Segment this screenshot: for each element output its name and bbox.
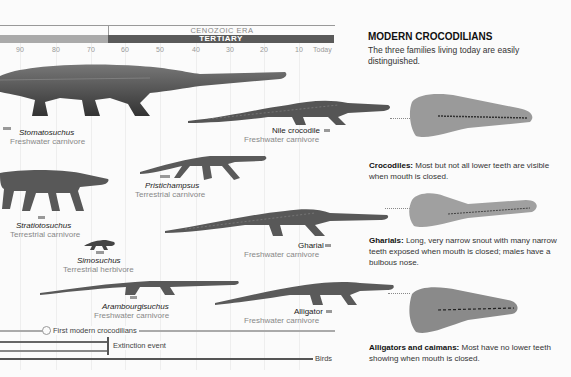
species-description: Terrestrial carnivore: [135, 190, 205, 199]
tick-label: 50: [156, 46, 164, 53]
leader-line: [385, 208, 410, 209]
alligator-illustration: [215, 275, 395, 307]
species-description: Freshwater carnivore: [244, 135, 319, 144]
range-marker: [38, 216, 45, 219]
species-name: Simosuchus: [77, 256, 121, 265]
alligators-description: Alligators and caimans: Most have no low…: [369, 342, 564, 364]
species-name: Gharial: [298, 241, 324, 250]
species-description: Freshwater carnivore: [10, 137, 85, 146]
range-marker: [324, 129, 330, 132]
crocodile-head-illustration: [408, 88, 536, 148]
range-marker: [325, 244, 331, 247]
species-description: Terrestrial herbivore: [63, 265, 134, 274]
crocodiles-description: Crocodiles: Most but not all lower teeth…: [369, 160, 564, 182]
leader-line: [390, 118, 410, 119]
gharials-label: Gharials:: [369, 236, 404, 245]
tick-label: 90: [16, 46, 24, 53]
simosuchus-illustration: [84, 238, 116, 250]
range-marker: [96, 251, 104, 254]
species-description: Terrestrial carnivore: [10, 230, 80, 239]
species-name: Nile crocodile: [272, 126, 320, 135]
tick-label: 70: [87, 46, 95, 53]
species-name: Stratiotosuchus: [16, 221, 71, 230]
birds-line: [0, 358, 314, 360]
extinct-line-2: [0, 350, 108, 352]
species-description: Freshwater carnivore: [244, 250, 319, 259]
tertiary-bar: TERTIARY: [108, 35, 334, 43]
species-name: Alligator: [294, 307, 323, 316]
leader-line: [388, 293, 410, 294]
range-marker: [3, 127, 11, 130]
species-description: Freshwater carnivore: [94, 311, 169, 320]
tick-label: 80: [52, 46, 60, 53]
tick-label: 30: [226, 46, 234, 53]
species-description: Freshwater carnivore: [244, 316, 319, 325]
species-name: Arambourgisuchus: [102, 302, 169, 311]
range-marker: [160, 175, 170, 178]
extinct-line-1: [0, 341, 108, 343]
extinction-label: Extinction event: [111, 341, 168, 350]
birds-label: Birds: [313, 354, 334, 363]
sidebar-intro: The three families living today are easi…: [368, 45, 558, 67]
gharial-illustration: [165, 203, 390, 238]
range-marker: [326, 310, 332, 313]
alligators-label: Alligators and caimans:: [369, 343, 459, 352]
nile-crocodile-illustration: [188, 95, 393, 127]
sidebar-title: MODERN CROCODILIANS: [368, 31, 492, 42]
mesozoic-bar: [0, 35, 108, 43]
first-modern-marker-icon: [42, 326, 51, 335]
stratiotosuchus-illustration: [0, 165, 110, 215]
extinction-tick: [107, 346, 109, 355]
alligator-head-illustration: [408, 282, 520, 337]
arambourgisuchus-illustration: [40, 275, 240, 297]
tick-label: 10: [295, 46, 303, 53]
gharials-description: Gharials: Long, very narrow snout with m…: [369, 235, 564, 268]
species-name: Pristichampsus: [145, 181, 199, 190]
tick-label: Today: [313, 46, 332, 53]
gharial-head-illustration: [408, 190, 540, 232]
tick-label: 60: [121, 46, 129, 53]
tick-label: 40: [192, 46, 200, 53]
range-marker: [130, 296, 137, 299]
extinction-tick: [107, 337, 109, 346]
crocodiles-label: Crocodiles:: [369, 161, 413, 170]
tick-label: 20: [260, 46, 268, 53]
species-name: Stomatosuchus: [19, 128, 74, 137]
first-modern-label: First modern crocodilians: [51, 326, 139, 335]
